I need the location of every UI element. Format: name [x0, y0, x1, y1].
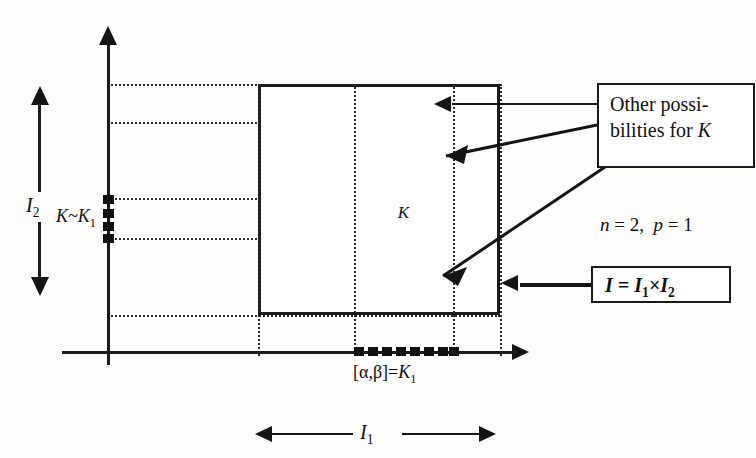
i1-arrow-shaft-left [271, 433, 353, 435]
y-tick-label-left: K~ [56, 206, 78, 226]
x-marker-square-7 [438, 347, 448, 356]
i-definition-arrow-shaft [520, 283, 592, 287]
y-axis-label-sub: 2 [33, 205, 40, 220]
product-interval-diagram: K K~K1 [α,β]=K1 I2 I1 [0, 0, 756, 458]
callout-other-line2-symbol: K [698, 119, 711, 141]
parameter-p-eq: = [663, 214, 683, 235]
i1-arrow-head-right [479, 426, 496, 442]
x-marker-square-5 [410, 347, 420, 356]
y-marker-square-2 [103, 209, 114, 218]
parameters-comma: , [639, 214, 653, 235]
x-axis-label-base: I [360, 421, 367, 443]
parameters-text: n = 2, p = 1 [600, 214, 693, 236]
parameter-n-label: n [600, 214, 610, 235]
y-axis-arrowhead [99, 26, 117, 45]
x-tick-label-interval: [α,β]= [353, 362, 398, 382]
callout-arrow-2 [420, 120, 605, 165]
callout-arrow-3 [415, 163, 610, 288]
x-marker-square-6 [424, 347, 434, 356]
dotted-vline-rect-left [258, 84, 260, 356]
callout-other-line2: bilities for K [610, 118, 744, 144]
callout-arrow-1-head [434, 96, 451, 112]
x-marker-square-4 [396, 347, 406, 356]
y-axis-label-base: I [26, 194, 33, 216]
x-marker-square-1 [354, 347, 364, 356]
y-marker-square-1 [103, 195, 114, 204]
i-def-eq: = [613, 274, 634, 296]
callout-other-line1: Other possi- [610, 92, 744, 118]
dotted-vline-k1-left [354, 84, 356, 356]
i-def-times: × [649, 274, 660, 296]
x-axis-label-i1: I1 [360, 421, 373, 448]
parameter-n-eq: = [610, 214, 630, 235]
y-marker-square-4 [103, 234, 114, 243]
x-tick-label-alpha-beta: [α,β]=K1 [353, 362, 416, 387]
i2-arrow-head-up [31, 86, 49, 105]
i-def-rhs-second-sub: 2 [668, 285, 675, 300]
parameter-n-value: 2 [630, 214, 640, 235]
x-marker-square-8 [449, 347, 459, 356]
y-tick-label-base: K [78, 206, 90, 226]
i-def-lhs: I [605, 274, 613, 296]
i2-arrow-shaft-lower [38, 222, 41, 278]
y-marker-square-3 [103, 222, 114, 231]
x-tick-label-base: K [398, 362, 410, 382]
x-axis-label-sub: 1 [367, 432, 374, 447]
y-axis-label-i2: I2 [26, 194, 39, 221]
i2-arrow-head-down [31, 277, 49, 296]
i-def-rhs-second: I [660, 274, 668, 296]
callout-other-possibilities: Other possi- bilities for K [597, 83, 755, 168]
i-definition-arrow-head [501, 275, 518, 291]
x-marker-square-2 [368, 347, 378, 356]
callout-arrow-1-shaft [452, 103, 598, 105]
i1-arrow-head-left [255, 426, 272, 442]
i-def-rhs-first: I [634, 274, 642, 296]
dotted-guide-bottom [108, 315, 500, 317]
parameter-p-value: 1 [683, 214, 693, 235]
x-marker-square-3 [382, 347, 392, 356]
i-def-rhs-first-sub: 1 [642, 285, 649, 300]
parameter-p-label: p [653, 214, 663, 235]
y-tick-label-k-tilde-k1: K~K1 [56, 206, 96, 231]
callout-other-line2-prefix: bilities for [610, 119, 698, 141]
x-axis-arrowhead [512, 344, 529, 360]
y-tick-label-sub: 1 [90, 216, 96, 230]
callout-i-definition: I = I1×I2 [591, 266, 731, 303]
i1-arrow-shaft-right [402, 433, 480, 435]
i2-arrow-shaft-upper [38, 104, 41, 192]
x-tick-label-sub: 1 [410, 372, 416, 386]
